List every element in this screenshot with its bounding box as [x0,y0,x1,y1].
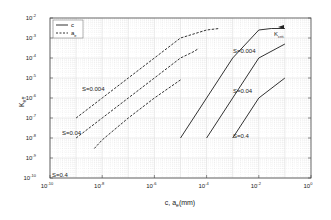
y-tick-label: 10-5 [26,73,37,81]
y-axis-title: Keff [18,96,27,107]
x-tick-label: 10-10 [41,181,54,189]
x-tick-label: 10-8 [94,181,105,189]
x-tick-label: 10-2 [251,181,262,189]
y-tick-label: 10-10 [24,173,37,181]
x-tick-label: 100 [304,181,314,189]
legend-label-c: c [71,22,74,28]
annotation-solid-s0004: S=0.004 [233,48,256,54]
annotation-dashed-s0004: S=0.004 [82,86,105,92]
y-tick-label: 10-8 [26,133,37,141]
annotation-solid-s004: S=0.04 [233,88,253,94]
x-tick-label: 10-6 [146,181,157,189]
annotation-dashed-s04: S=0.4 [52,172,69,178]
x-tick-label: 10-4 [198,181,209,189]
x-axis-title: c, ae(mm) [165,199,195,208]
series-line [76,29,219,119]
annotation-solid-s04: S=0.4 [233,133,250,139]
chart: 10-1010-810-610-410-210010-210-310-410-5… [0,0,331,220]
annotation-dashed-s004: S=0.04 [62,130,82,136]
y-tick-label: 10-6 [26,93,37,101]
y-tick-label: 10-4 [26,53,37,61]
y-tick-label: 10-2 [26,13,37,21]
y-tick-label: 10-3 [26,33,37,41]
y-tick-label: 10-9 [26,153,37,161]
y-tick-label: 10-7 [26,113,37,121]
grid-lines [50,18,311,178]
legend: c ae [53,20,83,38]
